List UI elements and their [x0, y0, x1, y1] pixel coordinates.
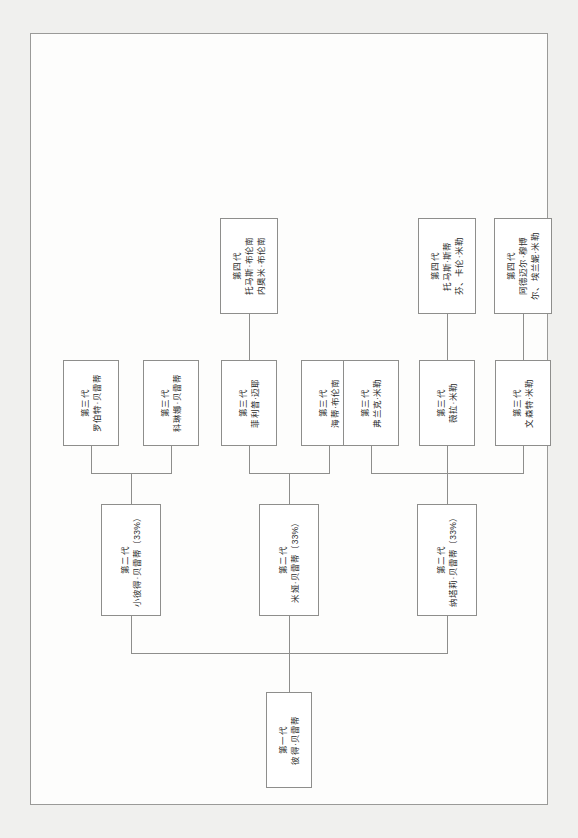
node-generation-label: 第三代 — [511, 389, 523, 417]
node-person-name: 米娅·贝雷蒂（33%） — [289, 517, 301, 602]
node-generation-label: 第三代 — [79, 389, 91, 417]
node-generation-label: 第二代 — [119, 546, 131, 574]
connector-branch-b-out — [289, 474, 290, 504]
node-generation-label: 第三代 — [359, 389, 371, 417]
node-person-name: 菲利普·迈耶 — [249, 378, 261, 427]
node-generation-label: 第二代 — [277, 546, 289, 574]
node-gen4-miller-a[interactable]: 第四代 托马斯·斯蒂 芬、卡伦·米勒 — [418, 218, 476, 314]
connector-branch-a-child1 — [91, 446, 92, 474]
connector-root-out — [289, 654, 290, 692]
node-person-name: 薇拉·米勒 — [447, 383, 459, 423]
node-gen3-vincent[interactable]: 第三代 文森特·米勒 — [495, 360, 551, 446]
node-gen4-brennan[interactable]: 第四代 托马斯·布伦南 内奥米·布伦南 — [220, 218, 278, 314]
node-person-name: 阿德迈尔·穆博 — [517, 237, 529, 295]
connector-branch-c-child1 — [371, 446, 372, 474]
node-person-name-2: 内奥米·布伦南 — [255, 237, 267, 295]
connector-vera-to-gen4 — [447, 314, 448, 360]
node-person-name: 文森特·米勒 — [523, 378, 535, 427]
connector-to-gen2-peterjr — [131, 616, 132, 654]
rotated-artwork-wrapper: 第一代 彼得·贝雷蒂 第二代 小彼得·贝雷蒂（33%） 第二代 米娅·贝雷蒂（3… — [31, 34, 547, 804]
node-generation-label: 第一代 — [277, 726, 289, 754]
node-gen4-miller-b[interactable]: 第四代 阿德迈尔·穆博 尔、埃兰妮·米勒 — [494, 218, 552, 314]
connector-branch-a-child2 — [171, 446, 172, 474]
node-person-name: 彼得·贝雷蒂 — [289, 715, 301, 764]
node-gen2-peter-jr[interactable]: 第二代 小彼得·贝雷蒂（33%） — [101, 504, 161, 616]
node-generation-label: 第三代 — [237, 389, 249, 417]
connector-branch-c-child2 — [447, 446, 448, 474]
node-gen3-corinna[interactable]: 第三代 科琳娜·贝雷蒂 — [143, 360, 199, 446]
node-generation-label: 第二代 — [435, 546, 447, 574]
node-person-name-2: 尔、埃兰妮·米勒 — [529, 232, 541, 299]
node-generation-label: 第四代 — [429, 252, 441, 280]
connector-branch-a-out — [131, 474, 132, 504]
connector-branch-b-spine — [249, 473, 329, 474]
node-gen2-mia[interactable]: 第二代 米娅·贝雷蒂（33%） — [259, 504, 319, 616]
node-person-name: 托马斯·斯蒂 — [441, 241, 453, 290]
node-person-name: 罗伯特·贝雷蒂 — [91, 374, 103, 432]
node-person-name: 纳塔莉·贝雷蒂（33%） — [447, 513, 459, 607]
node-generation-label: 第三代 — [435, 389, 447, 417]
node-person-name: 科琳娜·贝雷蒂 — [171, 374, 183, 432]
connector-to-gen2-mia — [289, 616, 290, 654]
connector-heidi-to-gen4 — [249, 314, 250, 360]
node-person-name: 托马斯·布伦南 — [243, 237, 255, 295]
node-generation-label: 第四代 — [505, 252, 517, 280]
node-person-name-2: 芬、卡伦·米勒 — [453, 237, 465, 295]
connector-to-gen2-natalie — [447, 616, 448, 654]
connector-branch-a-spine — [91, 473, 171, 474]
node-gen1-root[interactable]: 第一代 彼得·贝雷蒂 — [266, 692, 312, 788]
node-person-name: 小彼得·贝雷蒂（33%） — [131, 513, 143, 607]
node-gen3-frank[interactable]: 第三代 弗兰克·米勒 — [343, 360, 399, 446]
scanned-book-page: 第一代 彼得·贝雷蒂 第二代 小彼得·贝雷蒂（33%） 第二代 米娅·贝雷蒂（3… — [30, 33, 548, 805]
node-gen3-robert[interactable]: 第三代 罗伯特·贝雷蒂 — [63, 360, 119, 446]
node-gen3-philip[interactable]: 第三代 菲利普·迈耶 — [221, 360, 277, 446]
node-gen3-vera[interactable]: 第三代 薇拉·米勒 — [419, 360, 475, 446]
family-tree-canvas: 第一代 彼得·贝雷蒂 第二代 小彼得·贝雷蒂（33%） 第二代 米娅·贝雷蒂（3… — [31, 34, 547, 804]
connector-vincent-to-gen4 — [523, 314, 524, 360]
node-generation-label: 第三代 — [159, 389, 171, 417]
connector-branch-c-child3 — [523, 446, 524, 474]
node-generation-label: 第三代 — [317, 389, 329, 417]
connector-branch-b-child2 — [329, 446, 330, 474]
node-person-name: 海蒂·布伦南 — [329, 378, 341, 427]
node-generation-label: 第四代 — [231, 252, 243, 280]
node-person-name: 弗兰克·米勒 — [371, 378, 383, 427]
connector-branch-b-child1 — [249, 446, 250, 474]
connector-branch-c-out — [447, 474, 448, 504]
node-gen2-natalie[interactable]: 第二代 纳塔莉·贝雷蒂（33%） — [417, 504, 477, 616]
